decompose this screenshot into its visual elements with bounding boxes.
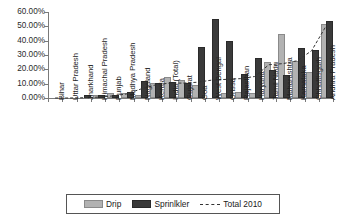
- x-axis-category-label: Kerala: [158, 78, 166, 100]
- x-axis-category-label: Karnataka: [300, 65, 308, 100]
- x-axis-category-label: Bihar: [58, 82, 66, 100]
- y-axis-tick-label: 10.00%: [0, 80, 45, 88]
- x-axis-category-label: Rajasthan: [243, 66, 251, 100]
- legend-item-sprinkler: Sprinlkler: [132, 199, 189, 209]
- y-axis-tick-label: 60.00%: [0, 8, 45, 16]
- y-axis-tick-label: 40.00%: [0, 37, 45, 45]
- x-axis-category-label: Chhattisgarh: [315, 57, 323, 100]
- legend-label-total-2010: Total 2010: [223, 199, 262, 209]
- x-axis-category-label: Haryana: [258, 71, 266, 100]
- x-axis-category-labels: BiharUttar PradeshJharkhandHimachal Prad…: [48, 100, 333, 186]
- x-axis-category-label: Tamil Nadu: [272, 62, 280, 100]
- x-axis-category-label: India (Total): [172, 60, 180, 100]
- sprinkler-swatch-icon: [132, 200, 151, 208]
- x-axis-category-label: Gujarat: [186, 75, 194, 100]
- legend-item-drip: Drip: [84, 199, 121, 209]
- x-axis-category-label: Nagaland: [144, 67, 152, 100]
- y-axis-tick-label: 30.00%: [0, 51, 45, 59]
- x-axis-category-label: Uttar Pradesh: [72, 53, 80, 100]
- x-axis-category-label: Goa: [201, 86, 209, 100]
- chart-legend: Drip Sprinlkler Total 2010: [66, 194, 280, 214]
- dashed-line-swatch-icon: [200, 204, 220, 205]
- x-axis-category-label: Maharashtra: [286, 57, 294, 100]
- chart-container: 60.00%50.00%40.00%30.00%20.00%10.00%0.00…: [0, 0, 339, 222]
- x-axis-category-label: Jharkhand: [87, 65, 95, 100]
- legend-item-total-2010: Total 2010: [200, 199, 262, 209]
- x-axis-category-label: Orissa: [229, 78, 237, 100]
- legend-label-sprinkler: Sprinlkler: [154, 199, 189, 209]
- y-axis-tick-label: 50.00%: [0, 22, 45, 30]
- y-axis-tick-label: 0.00%: [0, 94, 45, 102]
- x-axis-category-label: Andhra Pradesh: [329, 45, 337, 100]
- x-axis-category-label: West Bengal: [215, 57, 223, 100]
- x-axis-category-label: Himachal Pradesh: [101, 38, 109, 100]
- y-axis-tick-label: 20.00%: [0, 65, 45, 73]
- legend-label-drip: Drip: [106, 199, 121, 209]
- x-axis-category-label: Madhya Pradesh: [129, 43, 137, 100]
- drip-swatch-icon: [84, 200, 103, 208]
- x-axis-category-label: Punjab: [115, 76, 123, 100]
